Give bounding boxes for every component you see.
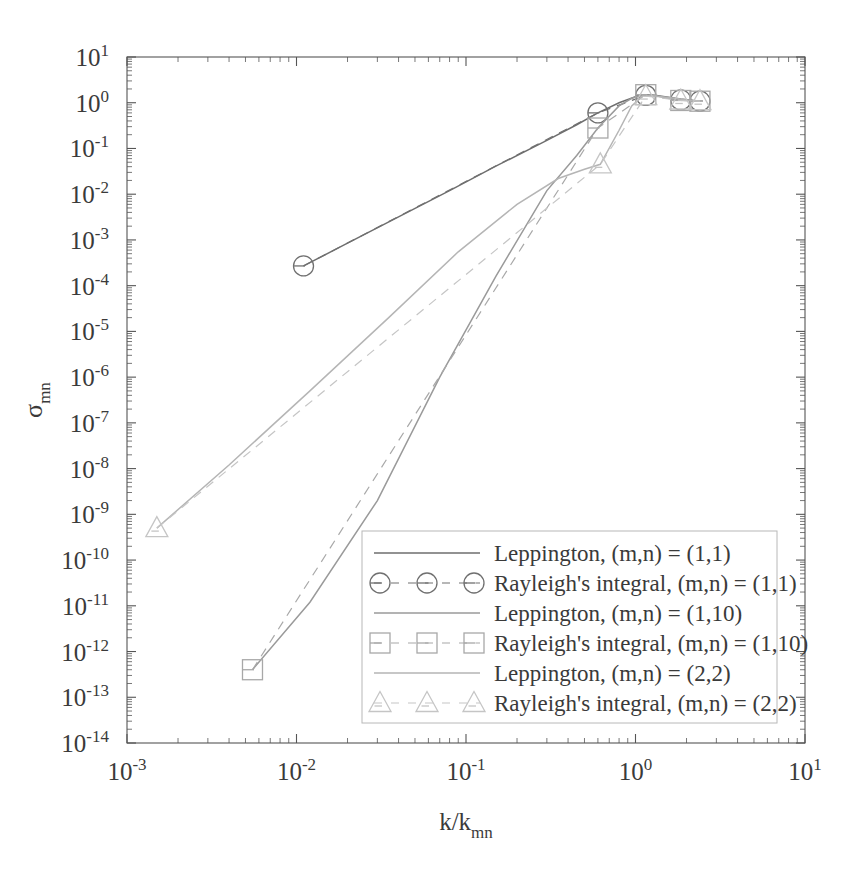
figure-container: 10-310-210-110010110110010-110-210-310-4…	[0, 0, 859, 872]
tick-label: 100	[619, 755, 653, 785]
log-log-plot: 10-310-210-110010110110010-110-210-310-4…	[0, 0, 859, 872]
tick-label: 10-1	[70, 132, 109, 162]
legend-label: Leppington, (m,n) = (2,2)	[494, 661, 731, 686]
tick-label: 10-14	[61, 727, 109, 757]
tick-label: 10-7	[70, 407, 110, 437]
tick-label: 101	[788, 755, 822, 785]
tick-label: 10-3	[70, 224, 109, 254]
tick-label: 10-13	[61, 681, 109, 711]
series-line-4	[157, 96, 703, 528]
tick-label: 100	[76, 87, 110, 117]
tick-label: 10-1	[446, 755, 485, 785]
legend-label: Rayleigh's integral, (m,n) = (2,2)	[494, 691, 797, 716]
tick-label: 10-5	[70, 315, 109, 345]
tick-label: 10-2	[277, 755, 316, 785]
tick-label: 101	[76, 41, 110, 71]
tick-label: 10-11	[62, 590, 109, 620]
series-line-1	[304, 95, 700, 266]
legend-label: Leppington, (m,n) = (1,1)	[494, 541, 731, 566]
tick-label: 10-2	[70, 178, 109, 208]
data-marker-triangle	[146, 517, 168, 537]
x-axis-label: k/kmn	[439, 808, 493, 842]
legend-label: Rayleigh's integral, (m,n) = (1,1)	[494, 571, 797, 596]
tick-label: 10-6	[70, 361, 109, 391]
tick-label: 10-4	[70, 270, 110, 300]
tick-label: 10-3	[107, 755, 146, 785]
series-line-5	[157, 96, 700, 528]
y-axis-label: σmn	[19, 382, 54, 418]
y-tick-labels: 10110010-110-210-310-410-510-610-710-810…	[61, 41, 109, 757]
legend-label: Leppington, (m,n) = (1,10)	[494, 601, 742, 626]
tick-label: 10-9	[70, 498, 109, 528]
tick-label: 10-12	[61, 636, 109, 666]
legend-label: Rayleigh's integral, (m,n) = (1,10)	[494, 631, 808, 656]
x-tick-labels: 10-310-210-1100101	[107, 755, 821, 785]
tick-label: 10-8	[70, 453, 109, 483]
legend: Leppington, (m,n) = (1,1)Rayleigh's inte…	[362, 531, 808, 723]
tick-label: 10-10	[61, 544, 109, 574]
series-line-0	[304, 95, 703, 266]
